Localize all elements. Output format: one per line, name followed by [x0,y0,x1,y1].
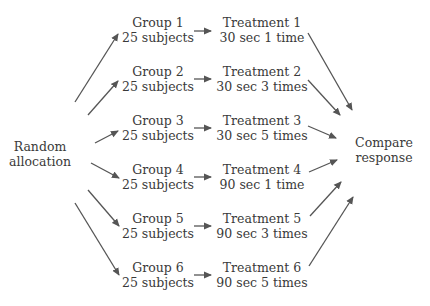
compare-response-node: Compare response [355,135,413,165]
treatment-detail: 90 sec 3 times [216,226,307,241]
random-allocation-line1: Random [9,139,71,154]
group-label: Group 2 [122,64,194,79]
treatment-node-1: Treatment 1 30 sec 1 time [220,15,305,45]
treatment-label: Treatment 2 [216,64,307,79]
arrow-treatment-4-to-compare [309,160,337,172]
group-size: 25 subjects [122,79,194,94]
group-node-4: Group 4 25 subjects [122,162,194,192]
arrow-allocation-to-group-3 [95,131,118,143]
arrow-treatment-6-to-compare [309,197,353,266]
arrow-treatment-1-to-compare [308,33,352,110]
random-allocation-line2: allocation [9,154,71,169]
group-node-1: Group 1 25 subjects [122,15,194,45]
treatment-detail: 30 sec 1 time [220,30,305,45]
group-label: Group 5 [122,211,194,226]
group-size: 25 subjects [122,30,194,45]
arrow-allocation-to-group-6 [75,203,119,275]
group-node-5: Group 5 25 subjects [122,211,194,241]
arrow-treatment-5-to-compare [310,182,341,216]
treatment-label: Treatment 5 [216,211,307,226]
treatment-label: Treatment 3 [216,113,307,128]
treatment-node-2: Treatment 2 30 sec 3 times [216,64,307,94]
treatment-node-6: Treatment 6 90 sec 5 times [216,260,307,290]
compare-response-line1: Compare [355,135,413,150]
treatment-detail: 90 sec 5 times [216,275,307,290]
treatment-label: Treatment 1 [220,15,305,30]
group-size: 25 subjects [122,177,194,192]
group-label: Group 6 [122,260,194,275]
arrow-allocation-to-group-1 [75,34,118,102]
treatment-label: Treatment 4 [220,162,305,177]
arrow-treatment-3-to-compare [308,126,336,138]
group-size: 25 subjects [122,275,194,290]
compare-response-line2: response [355,150,413,165]
experiment-design-diagram: Random allocation Group 1 25 subjects Gr… [0,0,430,306]
treatment-detail: 90 sec 1 time [220,177,305,192]
treatment-node-4: Treatment 4 90 sec 1 time [220,162,305,192]
arrow-allocation-to-group-5 [88,190,119,226]
treatment-node-3: Treatment 3 30 sec 5 times [216,113,307,143]
arrow-allocation-to-group-4 [91,163,119,178]
treatment-node-5: Treatment 5 90 sec 3 times [216,211,307,241]
treatment-label: Treatment 6 [216,260,307,275]
group-node-2: Group 2 25 subjects [122,64,194,94]
random-allocation-node: Random allocation [9,139,71,169]
group-label: Group 3 [122,113,194,128]
group-node-6: Group 6 25 subjects [122,260,194,290]
treatment-detail: 30 sec 3 times [216,79,307,94]
group-label: Group 1 [122,15,194,30]
group-size: 25 subjects [122,128,194,143]
treatment-detail: 30 sec 5 times [216,128,307,143]
arrow-allocation-to-group-2 [88,81,118,115]
group-label: Group 4 [122,162,194,177]
group-node-3: Group 3 25 subjects [122,113,194,143]
group-size: 25 subjects [122,226,194,241]
arrow-treatment-2-to-compare [308,80,340,115]
